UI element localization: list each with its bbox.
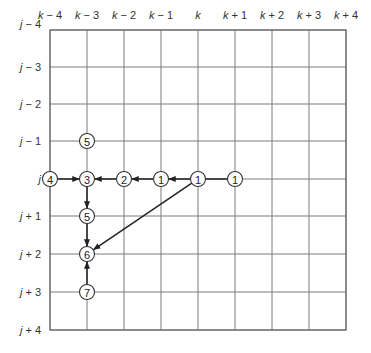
column-label: k + 4 — [334, 9, 358, 21]
column-label: k − 3 — [75, 9, 99, 21]
edges — [58, 179, 228, 285]
column-label: k + 1 — [223, 9, 247, 21]
node-label: 2 — [121, 174, 127, 186]
column-label: k − 2 — [112, 9, 136, 21]
node-label: 1 — [158, 174, 164, 186]
node-label: 6 — [84, 249, 90, 261]
row-label: j + 4 — [18, 324, 41, 336]
row-label: j + 3 — [18, 286, 41, 298]
column-label: k — [195, 9, 201, 21]
node-label: 5 — [84, 211, 90, 223]
node-label: 5 — [84, 136, 90, 148]
node: 7 — [80, 285, 95, 300]
node-label: 3 — [84, 174, 90, 186]
column-label: k − 1 — [149, 9, 173, 21]
row-label: j + 1 — [18, 210, 41, 222]
node-label: 7 — [84, 287, 90, 299]
node-label: 1 — [195, 174, 201, 186]
node: 5 — [80, 209, 95, 224]
row-label: j − 2 — [18, 98, 41, 110]
row-labels: j − 4j − 3j − 2j − 1jj + 1j + 2j + 3j + … — [18, 18, 42, 336]
node: 6 — [80, 247, 95, 262]
node: 2 — [117, 172, 132, 187]
column-labels: k − 4k − 3k − 2k − 1kk + 1k + 2k + 3k + … — [38, 9, 358, 21]
node: 4 — [43, 172, 58, 187]
row-label: j − 1 — [18, 135, 41, 147]
node: 1 — [228, 172, 243, 187]
node-label: 1 — [232, 174, 238, 186]
node: 5 — [80, 134, 95, 149]
row-label: j − 3 — [18, 61, 41, 73]
node: 1 — [154, 172, 169, 187]
column-label: k + 3 — [297, 9, 321, 21]
column-label: k − 4 — [38, 9, 62, 21]
node: 3 — [80, 172, 95, 187]
row-label: j + 2 — [18, 248, 41, 260]
row-label: j − 4 — [18, 18, 41, 30]
node: 1 — [191, 172, 206, 187]
node-label: 4 — [47, 174, 53, 186]
grid-diagram: k − 4k − 3k − 2k − 1kk + 1k + 2k + 3k + … — [0, 0, 371, 353]
row-label: j — [37, 173, 42, 185]
column-label: k + 2 — [260, 9, 284, 21]
